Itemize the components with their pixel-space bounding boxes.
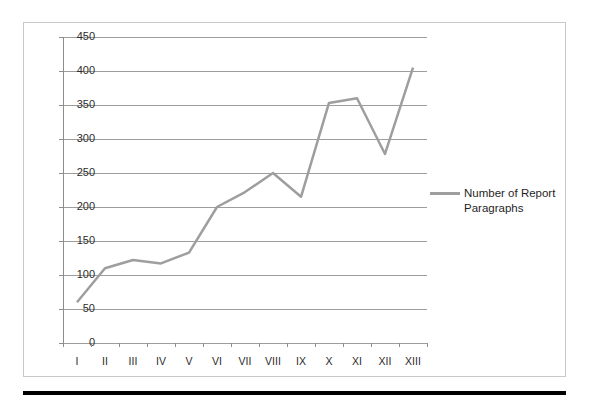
series-line-chart bbox=[63, 37, 427, 343]
x-axis-tick-label: I bbox=[76, 356, 79, 367]
x-axis: IIIIIIIVVVIVIIVIIIIXXXIXIIXIII bbox=[63, 343, 427, 373]
x-axis-tick bbox=[343, 343, 344, 347]
legend-line-swatch bbox=[430, 192, 460, 195]
x-axis-tick-label: VII bbox=[239, 356, 252, 367]
x-axis-tick-label: XIII bbox=[405, 356, 421, 367]
x-axis-tick-label: V bbox=[185, 356, 192, 367]
x-axis-tick-label: VI bbox=[212, 356, 222, 367]
x-axis-tick bbox=[287, 343, 288, 347]
x-axis-tick bbox=[399, 343, 400, 347]
x-axis-tick-label: IV bbox=[156, 356, 166, 367]
x-axis-tick-label: X bbox=[325, 356, 332, 367]
x-axis-tick-label: VIII bbox=[265, 356, 281, 367]
x-axis-tick-label: III bbox=[129, 356, 138, 367]
x-axis-tick bbox=[427, 343, 428, 347]
x-axis-tick bbox=[315, 343, 316, 347]
x-axis-tick bbox=[259, 343, 260, 347]
series-line bbox=[77, 68, 413, 303]
legend-label: Number of Report Paragraphs bbox=[464, 186, 568, 216]
chart-legend: Number of Report Paragraphs bbox=[430, 186, 568, 216]
bottom-divider-rule bbox=[23, 391, 566, 395]
x-axis-tick bbox=[63, 343, 64, 347]
x-axis-tick-label: IX bbox=[296, 356, 306, 367]
x-axis-tick-label: XI bbox=[352, 356, 362, 367]
chart-frame: 050100150200250300350400450 IIIIIIIVVVIV… bbox=[23, 22, 566, 377]
x-axis-tick bbox=[203, 343, 204, 347]
x-axis-tick bbox=[91, 343, 92, 347]
x-axis-tick bbox=[231, 343, 232, 347]
plot-area: 050100150200250300350400450 IIIIIIIVVVIV… bbox=[63, 37, 427, 343]
x-axis-tick bbox=[371, 343, 372, 347]
x-axis-tick bbox=[175, 343, 176, 347]
x-axis-tick bbox=[119, 343, 120, 347]
x-axis-tick bbox=[147, 343, 148, 347]
x-axis-tick-label: II bbox=[102, 356, 108, 367]
x-axis-tick-label: XII bbox=[379, 356, 392, 367]
